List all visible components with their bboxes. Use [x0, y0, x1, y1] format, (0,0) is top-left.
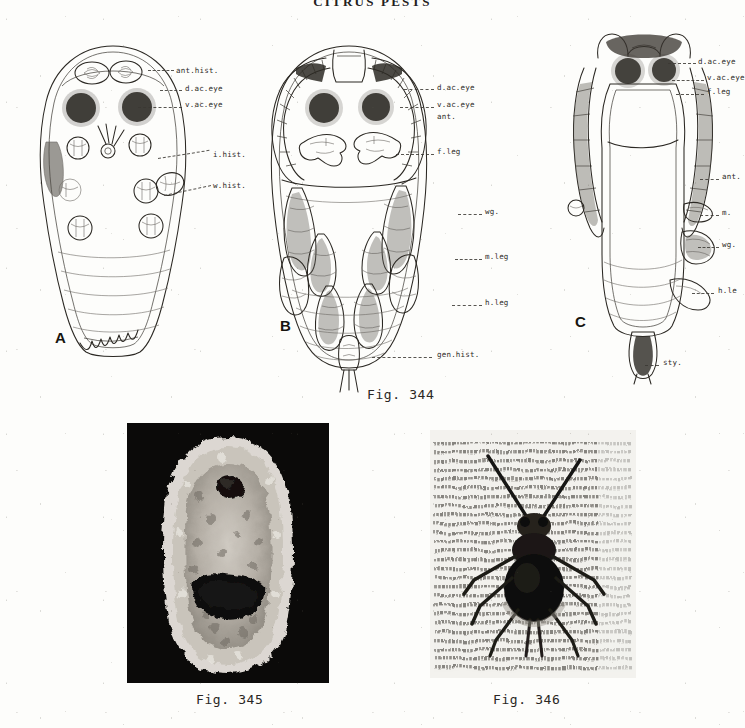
ventral-accessory-eye-right — [129, 134, 151, 156]
leader-sty-c — [645, 365, 659, 366]
running-head: CITRUS PESTS — [0, 0, 745, 10]
ventral-accessory-eye-left-b — [299, 135, 346, 166]
panel-letter-b: B — [280, 317, 291, 334]
leader-ant-hist — [148, 70, 174, 71]
label-d-ac-eye-c: d.ac.eye — [698, 57, 736, 66]
leader-v-ac-eye-b — [400, 107, 434, 108]
label-v-ac-eye-b: v.ac.eye — [437, 100, 475, 109]
central-stylet-cluster — [98, 124, 124, 158]
leader-wg-c — [698, 247, 719, 248]
label-w-hist: w.hist. — [213, 181, 246, 190]
leader-wg-b — [458, 214, 482, 215]
leader-gen-hist — [372, 357, 432, 358]
caption-fig-344: Fig. 344 — [367, 387, 434, 402]
leg-histoblast-left-lower — [68, 216, 92, 240]
leader-v-ac-eye-a — [138, 107, 182, 108]
label-wg-c: wg. — [722, 240, 736, 249]
leader-d-ac-eye-c — [668, 63, 696, 64]
label-gen-hist: gen.hist. — [437, 350, 479, 359]
figure-346-photo — [430, 430, 636, 678]
leader-v-ac-eye-c — [672, 80, 704, 81]
stylet-c — [629, 332, 657, 384]
leader-f-leg-b — [396, 154, 434, 155]
label-ant-hist: ant.hist. — [176, 66, 218, 75]
leader-f-leg-c — [676, 94, 704, 95]
label-h-leg-c: h.le — [718, 286, 737, 295]
leader-d-ac-eye-a — [160, 90, 182, 91]
ventral-accessory-eye-left — [67, 137, 89, 159]
leg-histoblast-right-lower — [139, 214, 163, 238]
hind-leg-c — [670, 279, 710, 310]
figure-344-panel-a — [18, 38, 208, 373]
leg-histoblast-left-upper — [59, 179, 81, 201]
panel-letter-a: A — [55, 329, 66, 346]
label-ant-b: ant. — [437, 112, 456, 121]
leader-h-leg-b — [452, 305, 482, 306]
mid-leg-left — [307, 234, 336, 296]
hind-leg-right — [354, 284, 383, 348]
leader-ant-c — [700, 179, 719, 180]
label-ant-c: ant. — [722, 172, 741, 181]
dorsal-accessory-eye-left — [62, 89, 100, 127]
label-sty-c: sty. — [663, 358, 682, 367]
genital-histoblast — [339, 336, 360, 393]
antennal-histoblast-right — [110, 61, 142, 83]
panel-letter-c: C — [575, 313, 586, 330]
mid-leg-right — [362, 232, 391, 294]
ventral-accessory-eye-right-b — [354, 133, 401, 164]
leader-m-leg-b — [455, 259, 482, 260]
label-f-leg-c: f.leg — [707, 87, 731, 96]
appendage-column-left — [573, 68, 604, 237]
label-m-leg-b: m.leg — [485, 252, 509, 261]
label-d-ac-eye-b: d.ac.eye — [437, 83, 475, 92]
leg-histoblast-right-upper — [134, 179, 158, 203]
label-f-leg-b: f.leg — [437, 147, 461, 156]
caption-fig-346: Fig. 346 — [493, 692, 560, 707]
label-h-leg-b: h.leg — [485, 298, 509, 307]
label-d-ac-eye-a: d.ac.eye — [185, 84, 223, 93]
figure-345-photo — [127, 423, 329, 683]
spiracle-left-c — [568, 200, 584, 216]
label-i-hist: i.hist. — [213, 150, 246, 159]
caption-fig-345: Fig. 345 — [196, 692, 263, 707]
leader-h-leg-c — [692, 293, 714, 294]
label-m-leg-c: m. — [722, 208, 731, 217]
leader-m-leg-c — [700, 215, 719, 216]
label-wg-b: wg. — [485, 207, 499, 216]
label-v-ac-eye-c: v.ac.eye — [707, 73, 745, 82]
leader-d-ac-eye-b — [404, 89, 434, 90]
label-v-ac-eye-a: v.ac.eye — [185, 100, 223, 109]
